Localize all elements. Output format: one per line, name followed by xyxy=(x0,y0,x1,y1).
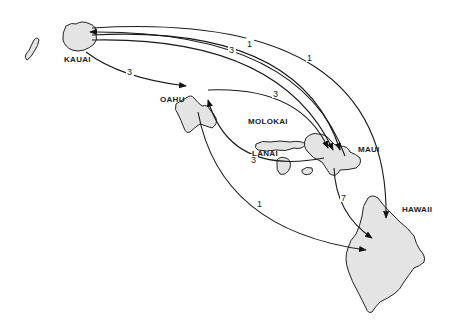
route-value: 1 xyxy=(307,53,312,63)
route-value: 3 xyxy=(127,67,132,77)
hawaii-flow-diagram: 1 3 1 3 3 3 1 7 KAUAI OAHU MOLOKAI LANAI… xyxy=(0,0,470,336)
label-oahu: OAHU xyxy=(160,95,185,104)
island-lanai xyxy=(277,157,291,174)
island-kahoolawe xyxy=(302,167,313,174)
route-value: 1 xyxy=(247,39,252,49)
route-value-labels: 1 3 1 3 3 3 1 7 xyxy=(126,38,348,209)
route-oahu-to-hawaii-1 xyxy=(198,112,366,250)
route-value: 1 xyxy=(257,199,262,209)
route-kauai-to-oahu-3 xyxy=(86,52,186,86)
label-maui: MAUI xyxy=(358,145,380,154)
label-hawaii: HAWAII xyxy=(402,205,432,214)
route-kauai-to-hawaii-1 xyxy=(92,27,386,218)
label-molokai: MOLOKAI xyxy=(248,117,288,126)
route-value: 3 xyxy=(229,45,234,55)
label-lanai: LANAI xyxy=(252,149,278,158)
route-value: 3 xyxy=(273,89,278,99)
island-kauai xyxy=(63,22,97,51)
label-kauai: KAUAI xyxy=(64,55,91,64)
route-value: 7 xyxy=(341,193,346,203)
island-niihau xyxy=(25,38,39,60)
